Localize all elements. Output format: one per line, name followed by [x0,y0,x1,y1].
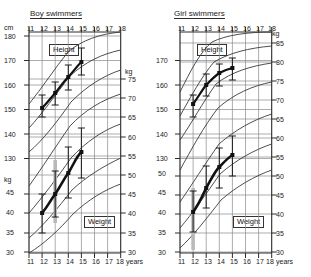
chart-panel-girl: Girl swimmers kg 11 12 13 14 15 16 17 18… [156,0,311,277]
figure-root: Boy swimmers cm kg kg 11 12 13 14 15 16 … [0,0,311,277]
height-mean-curve-girl [193,68,232,104]
weight-mean-curve-boy [42,152,81,213]
weight-errorbars-boy [39,128,85,233]
chart-panel-boy: Boy swimmers cm kg kg 11 12 13 14 15 16 … [0,0,155,277]
weight-mean-curve-girl [193,155,232,212]
plot-svg-boy [0,0,155,277]
plot-frame-boy [29,32,121,253]
reference-curves-weight-boy [29,94,121,253]
plot-svg-girl [156,0,311,277]
grid-boy [29,32,121,253]
